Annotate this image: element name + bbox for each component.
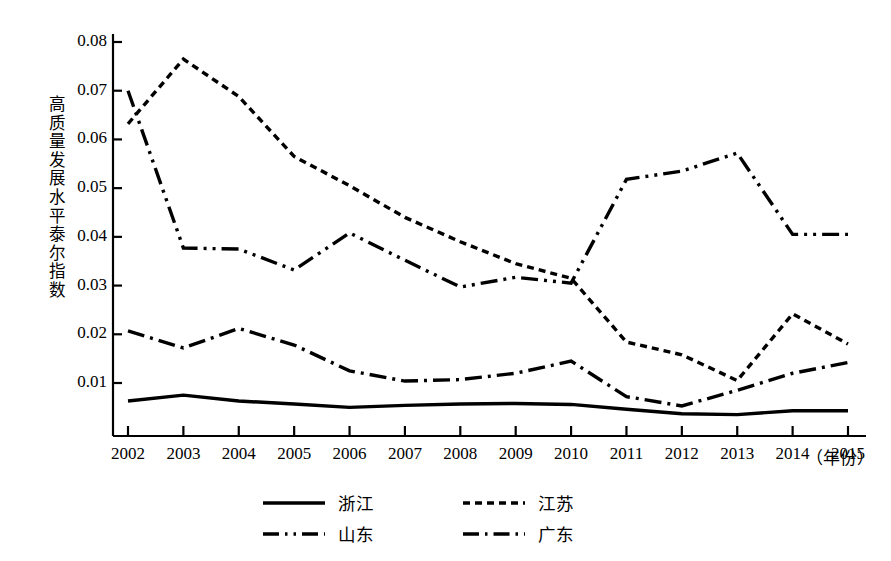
legend-item-guangdong: 广东 [462,521,662,546]
x-tick-label: 2010 [541,444,601,464]
legend-item-shandong: 山东 [262,521,462,546]
y-tick-label: 0.08 [45,31,107,51]
legend-label-jiangsu: 江苏 [538,490,574,515]
x-tick-label: 2009 [486,444,546,464]
x-tick-label: 2013 [707,444,767,464]
y-tick-label: 0.04 [45,226,107,246]
legend-swatch-dotted [462,496,526,510]
legend-swatch-dash-dot-dot [262,527,326,541]
legend-label-zhejiang: 浙江 [338,490,374,515]
axes-group [113,34,866,436]
legend-label-shandong: 山东 [338,521,374,546]
y-axis-title-char: 平 [44,208,70,227]
x-tick-label: 2012 [652,444,712,464]
y-tick-label: 0.05 [45,177,107,197]
plot-area [0,0,891,561]
y-axis-title-char: 发 [44,152,70,171]
x-tick-label: 2007 [375,444,435,464]
y-axis-title-char: 尔 [44,245,70,264]
x-tick-label: 2003 [153,444,213,464]
chart-legend: 浙江 江苏 山东 广东 [262,487,662,549]
x-tick-label: 2005 [264,444,324,464]
x-tick-label: 2008 [430,444,490,464]
y-axis-title: 高质量发展水平泰尔指数 [44,96,70,301]
series-line-江苏 [128,59,848,381]
x-axis-unit-label: （年份） [806,444,874,469]
legend-swatch-solid [262,496,326,510]
y-tick-label: 0.01 [45,372,107,392]
chart-container: 高质量发展水平泰尔指数 0.010.020.030.040.050.060.07… [0,0,891,561]
y-tick-label: 0.03 [45,275,107,295]
legend-label-guangdong: 广东 [538,521,574,546]
x-tick-label: 2004 [209,444,269,464]
series-group [128,59,848,415]
x-tick-label: 2002 [98,444,158,464]
y-tick-label: 0.02 [45,323,107,343]
legend-row-1: 浙江 江苏 [262,487,662,518]
y-tick-label: 0.07 [45,80,107,100]
y-tick-label: 0.06 [45,128,107,148]
series-line-山东 [128,91,848,287]
series-line-广东 [128,328,848,405]
legend-item-zhejiang: 浙江 [262,490,462,515]
x-tick-label: 2006 [320,444,380,464]
legend-item-jiangsu: 江苏 [462,490,662,515]
x-tick-label: 2011 [596,444,656,464]
series-line-浙江 [128,395,848,414]
legend-swatch-dash-dot [462,527,526,541]
legend-row-2: 山东 广东 [262,518,662,549]
